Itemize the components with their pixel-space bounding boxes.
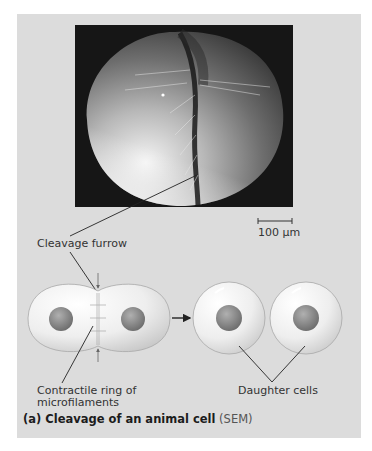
figure-caption: (a) Cleavage of an animal cell (SEM) bbox=[23, 412, 253, 426]
leader-line-daughter-left bbox=[239, 346, 272, 382]
daughter-cells bbox=[193, 282, 342, 354]
nucleus-left bbox=[49, 307, 73, 331]
nucleus-right bbox=[121, 307, 145, 331]
leader-line-daughter-right bbox=[272, 346, 305, 382]
label-daughter-cells: Daughter cells bbox=[238, 385, 318, 397]
label-cleavage-furrow: Cleavage furrow bbox=[37, 238, 127, 250]
leader-line-cleavage-furrow bbox=[70, 175, 197, 236]
dividing-cell bbox=[28, 273, 170, 362]
scale-bar bbox=[258, 218, 292, 224]
label-contractile-ring-line2: microfilaments bbox=[37, 397, 119, 409]
caption-tag: (SEM) bbox=[215, 412, 252, 426]
caption-title: (a) Cleavage of an animal cell bbox=[23, 412, 215, 426]
scale-bar-label: 100 µm bbox=[258, 227, 300, 239]
